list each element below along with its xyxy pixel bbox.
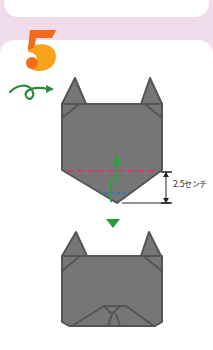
cat-face-after-fold [62,232,162,326]
cat-face-before-fold [62,78,172,203]
dimension-label: 2.5センチ [173,178,207,189]
next-step-arrow [106,219,120,228]
